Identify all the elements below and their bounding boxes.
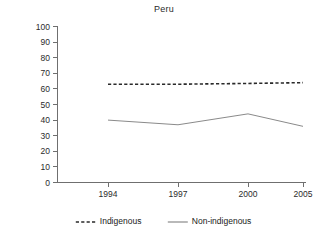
chart-legend: IndigenousNon-indigenous <box>76 216 252 226</box>
y-axis-tick-label: 60 <box>41 84 51 94</box>
y-axis-tick-label: 50 <box>41 100 51 110</box>
x-axis-tick-label: 1994 <box>99 189 118 199</box>
x-axis-tick-group: 1994199720002005 <box>99 183 313 200</box>
x-axis-tick-label: 1997 <box>169 189 188 199</box>
x-axis-tick-label: 2000 <box>239 189 258 199</box>
y-axis-tick-group: 0102030405060708090100 <box>36 22 58 188</box>
data-series-group <box>108 83 303 127</box>
y-axis-tick-label: 20 <box>41 146 51 156</box>
y-axis-tick-label: 30 <box>41 131 51 141</box>
y-axis-tick-label: 100 <box>36 22 50 32</box>
y-axis-tick-label: 0 <box>45 178 50 188</box>
chart-plot: 0102030405060708090100 1994199720002005 … <box>0 0 328 239</box>
y-axis-tick-label: 80 <box>41 53 51 63</box>
legend-label-indigenous: Indigenous <box>100 216 142 226</box>
y-axis-tick-label: 70 <box>41 68 51 78</box>
y-axis-tick-label: 10 <box>41 162 51 172</box>
x-axis-tick-label: 2005 <box>294 189 313 199</box>
y-axis-tick-label: 40 <box>41 115 51 125</box>
series-line-non-indigenous <box>108 114 303 126</box>
legend-label-non-indigenous: Non-indigenous <box>192 216 252 226</box>
y-axis-tick-label: 90 <box>41 37 51 47</box>
series-line-indigenous <box>108 83 303 85</box>
chart-container: Peru 0102030405060708090100 199419972000… <box>0 0 328 239</box>
